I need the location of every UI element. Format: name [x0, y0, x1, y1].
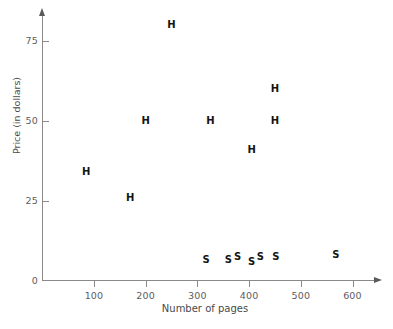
- data-point-s: S: [257, 252, 264, 262]
- data-point-h: H: [167, 20, 175, 30]
- data-point-h: H: [247, 145, 255, 155]
- data-point-s: S: [225, 255, 232, 265]
- data-point-h: H: [142, 116, 150, 126]
- data-point-s: S: [248, 257, 255, 267]
- data-point-h: H: [271, 84, 279, 94]
- data-point-h: H: [271, 116, 279, 126]
- scatter-plot-figure: 0255075 100200300400500600 HHHHHHHHSSSSS…: [0, 0, 393, 329]
- data-point-s: S: [234, 252, 241, 262]
- data-point-h: H: [82, 167, 90, 177]
- plot-area: HHHHHHHHSSSSSSS: [0, 0, 393, 329]
- data-point-h: H: [206, 116, 214, 126]
- data-point-s: S: [332, 250, 339, 260]
- x-axis-title: Number of pages: [115, 303, 295, 314]
- y-axis-title: Price (in dollars): [11, 56, 22, 176]
- data-point-s: S: [272, 252, 279, 262]
- data-point-h: H: [126, 193, 134, 203]
- data-point-s: S: [203, 255, 210, 265]
